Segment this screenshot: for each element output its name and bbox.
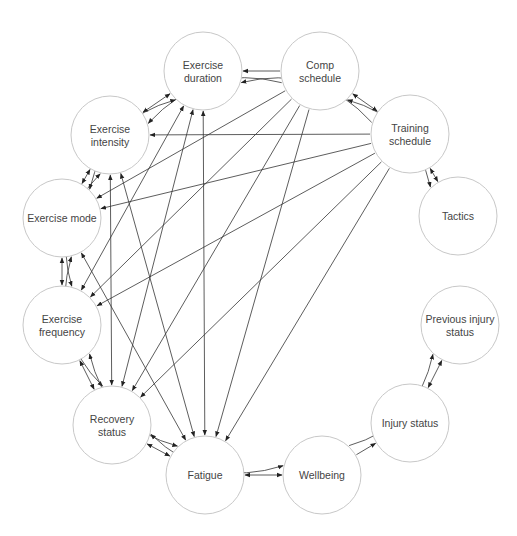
node-label: status	[446, 326, 474, 338]
node-comp: Compschedule	[281, 32, 359, 110]
node-label: schedule	[299, 72, 341, 84]
node-label: Injury status	[382, 417, 439, 429]
edge-training-to-fatigue	[226, 168, 390, 440]
node-label: Exercise	[183, 59, 223, 71]
node-label: Previous injury	[426, 313, 496, 325]
edge-intensity-to-mode	[82, 170, 90, 184]
edge-comp-to-fatigue	[216, 110, 309, 437]
node-mode: Exercise mode	[23, 179, 101, 257]
node-tactics: Tactics	[419, 177, 497, 255]
node-label: Exercise	[90, 123, 130, 135]
node-label: duration	[184, 72, 222, 84]
node-label: Exercise	[42, 313, 82, 325]
node-label: status	[98, 426, 126, 438]
node-label: frequency	[39, 326, 86, 338]
node-label: Tactics	[442, 210, 474, 222]
node-intensity: Exerciseintensity	[71, 96, 149, 174]
edge-wellbeing-to-injury	[356, 443, 375, 454]
node-duration: Exerciseduration	[164, 32, 242, 110]
node-label: Fatigue	[187, 469, 222, 481]
node-label: Recovery	[90, 413, 135, 425]
node-previnjury: Previous injurystatus	[421, 286, 499, 364]
edge-training-to-recovery	[141, 162, 382, 397]
edge-duration-to-fatigue	[203, 111, 205, 435]
node-recovery: Recoverystatus	[73, 386, 151, 464]
causal-network-diagram: ExercisedurationCompscheduleExerciseinte…	[0, 0, 517, 536]
node-label: Exercise mode	[27, 212, 97, 224]
node-frequency: Exercisefrequency	[23, 286, 101, 364]
node-wellbeing: Wellbeing	[283, 436, 361, 514]
edge-recovery-to-fatigue	[147, 444, 170, 456]
edge-training-to-intensity	[150, 134, 370, 135]
node-label: Comp	[306, 59, 334, 71]
node-label: Wellbeing	[299, 469, 345, 481]
edge-training-to-tactics	[430, 169, 438, 182]
node-fatigue: Fatigue	[166, 436, 244, 514]
node-training: Trainingschedule	[371, 95, 449, 173]
node-label: schedule	[389, 135, 431, 147]
node-injury: Injury status	[371, 384, 449, 462]
node-label: intensity	[91, 136, 130, 148]
node-label: Training	[391, 122, 429, 134]
